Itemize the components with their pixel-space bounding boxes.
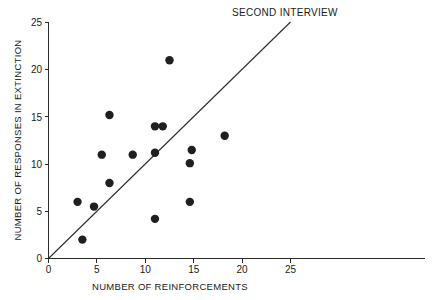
- data-point: [165, 56, 173, 64]
- y-tick-label-5: 5: [36, 206, 42, 217]
- data-point: [186, 198, 194, 206]
- y-tick-label-25: 25: [31, 17, 43, 28]
- data-point: [188, 146, 196, 154]
- data-point: [98, 150, 106, 158]
- data-point: [90, 202, 98, 210]
- data-points-layer: [73, 56, 229, 244]
- data-point: [159, 122, 167, 130]
- data-point: [220, 132, 228, 140]
- y-tick-label-15: 15: [31, 112, 43, 123]
- data-point: [151, 122, 159, 130]
- x-tick-label-5: 5: [94, 264, 100, 275]
- x-tick-label-20: 20: [237, 264, 249, 275]
- data-point: [105, 111, 113, 119]
- scatter-plot-figure: SECOND INTERVIEW 0 5 10 15 20 25: [0, 0, 440, 300]
- y-tick-label-0: 0: [36, 253, 42, 264]
- plot-canvas: SECOND INTERVIEW 0 5 10 15 20 25: [0, 0, 440, 300]
- y-tick-label-10: 10: [31, 159, 43, 170]
- x-tick-label-25: 25: [285, 264, 297, 275]
- chart-title: SECOND INTERVIEW: [232, 7, 338, 18]
- x-tick-label-0: 0: [46, 264, 52, 275]
- data-point: [151, 149, 159, 157]
- y-axis-title: NUMBER OF RESPONSES IN EXTINCTION: [12, 40, 23, 241]
- data-point: [186, 159, 194, 167]
- data-point: [151, 215, 159, 223]
- data-point: [105, 179, 113, 187]
- x-tick-label-15: 15: [188, 264, 200, 275]
- data-point: [73, 198, 81, 206]
- x-axis-title: NUMBER OF REINFORCEMENTS: [92, 281, 248, 292]
- x-tick-marks: [49, 259, 291, 263]
- y-tick-marks: [45, 23, 49, 259]
- y-tick-label-20: 20: [31, 64, 43, 75]
- data-point: [129, 150, 137, 158]
- x-tick-label-10: 10: [140, 264, 152, 275]
- data-point: [78, 235, 86, 243]
